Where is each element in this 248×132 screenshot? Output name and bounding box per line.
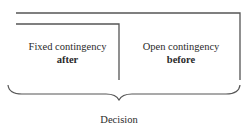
open-contingency-title: Open contingency (143, 41, 220, 52)
fixed-contingency-title: Fixed contingency (29, 41, 107, 52)
open-contingency-label: Open contingency before (122, 40, 240, 66)
curly-brace (8, 85, 240, 100)
fixed-contingency-timing: after (16, 53, 119, 66)
fixed-contingency-label: Fixed contingency after (16, 40, 119, 66)
decision-label: Decision (69, 113, 169, 126)
open-contingency-timing: before (122, 53, 240, 66)
contingency-diagram: Fixed contingency after Open contingency… (0, 0, 248, 132)
